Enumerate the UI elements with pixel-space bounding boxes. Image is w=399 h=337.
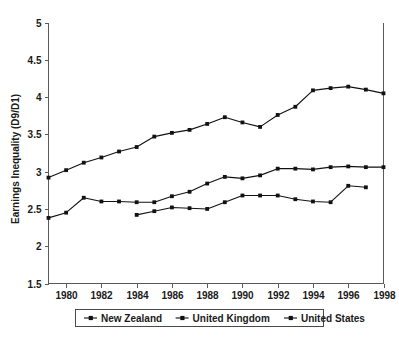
y-tick-label: 4 [36, 92, 42, 103]
x-tick-label: 1996 [337, 290, 360, 301]
data-point [117, 200, 121, 204]
series-path [49, 166, 384, 217]
legend-marker [89, 316, 93, 320]
data-point [47, 176, 51, 180]
data-point [293, 105, 297, 109]
x-tick-label: 1984 [126, 290, 149, 301]
data-point [99, 156, 103, 160]
series-united-states [135, 184, 368, 217]
earnings-inequality-line-chart: Earnings Inequality (D9/D1) 1.522.533.54… [0, 0, 399, 337]
data-point [311, 168, 315, 172]
series-path [49, 87, 384, 178]
data-point [258, 125, 262, 129]
y-tick-label: 3 [36, 167, 42, 178]
data-point [364, 185, 368, 189]
data-point [135, 200, 139, 204]
y-tick-label: 3.5 [28, 129, 42, 140]
data-point [364, 88, 368, 92]
legend-items: New ZealandUnited KingdomUnited States [84, 313, 365, 324]
data-point [382, 91, 386, 95]
data-point [47, 216, 51, 220]
x-tick-label: 1986 [161, 290, 184, 301]
data-point [276, 194, 280, 198]
data-point [346, 184, 350, 188]
data-point [346, 165, 350, 169]
x-tick-label: 1998 [373, 290, 396, 301]
data-point [82, 161, 86, 165]
legend-label: United Kingdom [193, 313, 270, 324]
data-point [276, 113, 280, 117]
data-point [152, 209, 156, 213]
y-tick-label: 4.5 [28, 55, 42, 66]
data-point [99, 200, 103, 204]
data-point [205, 182, 209, 186]
x-tick-label: 1988 [196, 290, 219, 301]
data-point [293, 167, 297, 171]
x-axis-ticks: 1980198219841986198819901992199419961998 [55, 284, 396, 301]
data-point [293, 197, 297, 201]
data-point [223, 175, 227, 179]
data-point [170, 131, 174, 135]
data-point [170, 194, 174, 198]
legend-marker [289, 316, 293, 320]
y-axis-title: Earnings Inequality (D9/D1) [10, 94, 21, 224]
data-point [170, 206, 174, 210]
y-tick-label: 5 [36, 18, 42, 29]
x-tick-label: 1992 [267, 290, 290, 301]
data-point [382, 165, 386, 169]
y-tick-label: 2 [36, 241, 42, 252]
x-tick-label: 1982 [90, 290, 113, 301]
data-point [258, 173, 262, 177]
data-point [188, 206, 192, 210]
data-point [152, 200, 156, 204]
x-tick-label: 1994 [302, 290, 325, 301]
x-tick-label: 1980 [55, 290, 78, 301]
data-point [64, 211, 68, 215]
x-tick-label: 1990 [231, 290, 254, 301]
data-point [152, 135, 156, 139]
data-point [223, 200, 227, 204]
y-tick-label: 1.5 [28, 279, 42, 290]
data-point [241, 176, 245, 180]
data-point [117, 150, 121, 154]
legend-marker [180, 316, 184, 320]
data-point [135, 213, 139, 217]
data-point [364, 165, 368, 169]
data-point [258, 194, 262, 198]
y-axis-ticks: 1.522.533.544.55 [28, 18, 49, 290]
legend-label: United States [301, 313, 365, 324]
legend-label: New Zealand [101, 313, 162, 324]
data-point [188, 190, 192, 194]
y-tick-label: 2.5 [28, 204, 42, 215]
series-layer [47, 85, 386, 220]
series-new-zealand [47, 85, 386, 180]
data-point [188, 128, 192, 132]
data-point [311, 88, 315, 92]
data-point [64, 168, 68, 172]
data-point [135, 145, 139, 149]
series-united-kingdom [47, 165, 386, 220]
data-point [329, 86, 333, 90]
data-point [329, 200, 333, 204]
data-point [241, 121, 245, 125]
data-point [205, 122, 209, 126]
data-point [223, 115, 227, 119]
data-point [311, 200, 315, 204]
data-point [329, 165, 333, 169]
data-point [241, 194, 245, 198]
chart-figure: Earnings Inequality (D9/D1) 1.522.533.54… [0, 0, 399, 337]
data-point [276, 167, 280, 171]
data-point [346, 85, 350, 89]
data-point [205, 207, 209, 211]
data-point [82, 196, 86, 200]
